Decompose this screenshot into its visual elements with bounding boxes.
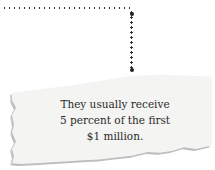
dotted-leader-vertical xyxy=(130,10,133,70)
callout-line: 5 percent of the first xyxy=(30,112,200,128)
callout-line: $1 million. xyxy=(30,128,200,144)
callout-line: They usually receive xyxy=(30,96,200,112)
leader-end-dot xyxy=(130,68,134,72)
dotted-leader-horizontal xyxy=(2,7,132,9)
leader-end-dot xyxy=(130,12,134,16)
callout-text: They usually receive 5 percent of the fi… xyxy=(30,96,200,144)
